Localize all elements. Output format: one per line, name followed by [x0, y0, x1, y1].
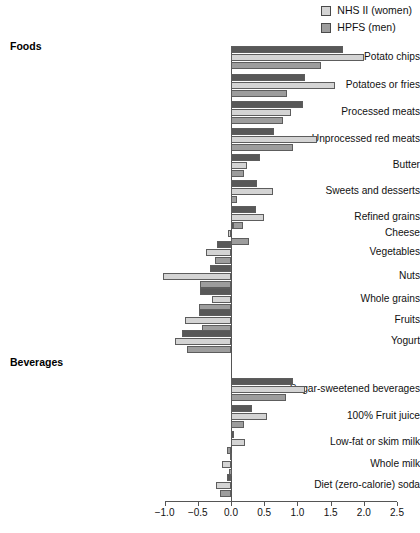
- bar-0: [231, 154, 260, 161]
- bar-1: [163, 273, 231, 280]
- x-axis-tick-mark: [331, 502, 332, 506]
- plot-area: −1.0−0.50.00.51.01.52.02.5: [0, 0, 420, 533]
- bar-2: [231, 144, 293, 151]
- bar-2: [231, 117, 283, 124]
- x-axis-tick-mark: [264, 502, 265, 506]
- bar-1: [175, 338, 231, 345]
- bar-1: [216, 482, 231, 489]
- bar-2: [231, 238, 249, 245]
- bar-1: [222, 461, 231, 468]
- bar-1: [231, 386, 305, 393]
- x-axis-tick-mark: [231, 502, 232, 506]
- bar-2: [231, 90, 287, 97]
- x-axis-tick-label: 2.5: [377, 508, 417, 518]
- bar-0: [227, 474, 231, 481]
- bar-1: [231, 413, 267, 420]
- bar-1: [231, 136, 317, 143]
- bar-0: [182, 330, 231, 337]
- bar-1: [231, 439, 245, 446]
- bar-1: [228, 230, 231, 237]
- bar-2: [200, 281, 231, 288]
- bar-0: [231, 405, 252, 412]
- x-axis-tick-mark: [198, 502, 199, 506]
- bar-1: [231, 188, 273, 195]
- bar-2: [231, 394, 286, 401]
- bar-0: [231, 128, 274, 135]
- bar-0: [200, 288, 231, 295]
- bar-0: [217, 241, 231, 248]
- bar-2: [231, 62, 321, 69]
- bar-0: [210, 265, 231, 272]
- bar-2: [231, 421, 244, 428]
- bar-1: [231, 162, 247, 169]
- bar-0: [231, 222, 234, 229]
- weight-change-bar-chart: NHS II (women)HPFS (men) FoodsBeverages …: [0, 0, 420, 533]
- bar-2: [231, 196, 237, 203]
- bar-0: [199, 309, 231, 316]
- x-axis-tick-mark: [297, 502, 298, 506]
- bar-2: [220, 490, 231, 497]
- bar-1: [206, 249, 231, 256]
- bar-1: [231, 214, 264, 221]
- bar-1: [185, 317, 231, 324]
- bar-2: [231, 170, 244, 177]
- bar-1: [231, 54, 364, 61]
- bar-0: [231, 101, 303, 108]
- bar-0: [231, 180, 257, 187]
- x-axis-tick-mark: [364, 502, 365, 506]
- bar-0: [231, 431, 234, 438]
- bar-0: [231, 206, 256, 213]
- x-axis-tick-mark: [397, 502, 398, 506]
- bar-0: [230, 453, 233, 460]
- bar-0: [231, 378, 293, 385]
- bar-0: [231, 46, 343, 53]
- bar-1: [231, 109, 291, 116]
- x-axis-tick-mark: [165, 502, 166, 506]
- bar-2: [215, 257, 231, 264]
- bar-1: [231, 82, 335, 89]
- bar-2: [187, 346, 231, 353]
- bar-0: [231, 74, 305, 81]
- x-axis-line: [165, 501, 397, 502]
- bar-1: [212, 296, 231, 303]
